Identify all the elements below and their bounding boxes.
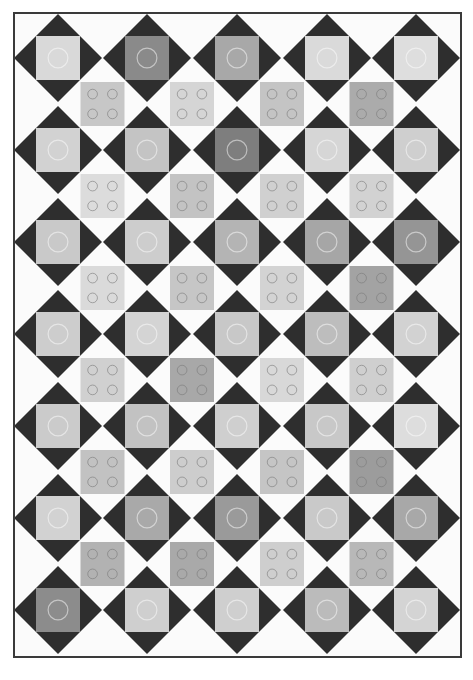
print-square: [350, 82, 394, 126]
print-square: [81, 174, 125, 218]
print-square: [260, 174, 304, 218]
print-square: [170, 450, 214, 494]
offset-block: [260, 174, 304, 218]
print-square: [81, 82, 125, 126]
print-square: [305, 220, 349, 264]
print-square: [125, 220, 169, 264]
offset-block: [260, 542, 304, 586]
print-square: [305, 588, 349, 632]
print-square: [260, 266, 304, 310]
print-square: [350, 358, 394, 402]
print-square: [125, 404, 169, 448]
offset-block: [81, 542, 125, 586]
print-square: [215, 404, 259, 448]
print-square: [125, 496, 169, 540]
print-square: [170, 266, 214, 310]
print-square: [81, 450, 125, 494]
offset-block: [260, 82, 304, 126]
print-square: [170, 82, 214, 126]
offset-block: [350, 358, 394, 402]
print-square: [260, 450, 304, 494]
offset-block: [260, 358, 304, 402]
print-square: [305, 128, 349, 172]
print-square: [305, 312, 349, 356]
print-square: [260, 82, 304, 126]
print-square: [170, 174, 214, 218]
offset-block: [81, 358, 125, 402]
print-square: [125, 128, 169, 172]
print-square: [394, 588, 438, 632]
offset-block: [170, 450, 214, 494]
quilt-photo: [0, 0, 473, 680]
print-square: [36, 496, 80, 540]
print-square: [81, 358, 125, 402]
print-square: [394, 312, 438, 356]
offset-block: [350, 542, 394, 586]
offset-block: [170, 266, 214, 310]
print-square: [394, 496, 438, 540]
print-square: [394, 220, 438, 264]
print-square: [260, 542, 304, 586]
print-square: [36, 588, 80, 632]
print-square: [125, 588, 169, 632]
print-square: [36, 220, 80, 264]
offset-block: [81, 174, 125, 218]
print-square: [81, 542, 125, 586]
print-square: [260, 358, 304, 402]
print-square: [170, 358, 214, 402]
offset-block: [260, 450, 304, 494]
offset-block: [170, 542, 214, 586]
print-square: [394, 128, 438, 172]
print-square: [215, 36, 259, 80]
print-square: [215, 220, 259, 264]
print-square: [215, 312, 259, 356]
offset-block: [350, 82, 394, 126]
print-square: [305, 36, 349, 80]
print-square: [215, 128, 259, 172]
print-square: [215, 496, 259, 540]
print-square: [394, 36, 438, 80]
print-square: [170, 542, 214, 586]
print-square: [305, 404, 349, 448]
print-square: [394, 404, 438, 448]
offset-block: [170, 82, 214, 126]
offset-block: [260, 266, 304, 310]
offset-block: [81, 450, 125, 494]
print-square: [36, 312, 80, 356]
offset-block: [81, 82, 125, 126]
offset-block: [170, 358, 214, 402]
print-square: [305, 496, 349, 540]
print-square: [81, 266, 125, 310]
offset-block: [350, 174, 394, 218]
print-square: [125, 312, 169, 356]
print-square: [350, 450, 394, 494]
print-square: [36, 128, 80, 172]
offset-block: [81, 266, 125, 310]
offset-block: [350, 450, 394, 494]
print-square: [350, 542, 394, 586]
print-square: [125, 36, 169, 80]
print-square: [36, 404, 80, 448]
print-square: [350, 174, 394, 218]
print-square: [36, 36, 80, 80]
print-square: [215, 588, 259, 632]
offset-block: [350, 266, 394, 310]
offset-block: [170, 174, 214, 218]
print-square: [350, 266, 394, 310]
